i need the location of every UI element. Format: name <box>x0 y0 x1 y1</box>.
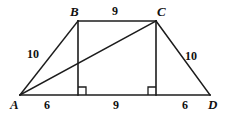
measure-label-ab: 10 <box>27 48 39 60</box>
vertex-label-c: C <box>157 5 166 18</box>
vertex-label-a: A <box>10 98 19 111</box>
measure-label-footc-to-d: 6 <box>182 99 188 111</box>
measure-label-cd: 10 <box>185 50 197 62</box>
measure-label-a-to-footb: 6 <box>44 99 50 111</box>
measure-label-bc: 9 <box>112 5 118 17</box>
right-angle-at-foot-of-c-icon <box>148 87 156 95</box>
diagonal-ac <box>20 21 156 95</box>
geometry-figure: A B C D 10 9 10 6 9 6 <box>0 0 227 118</box>
vertex-label-b: B <box>70 5 79 18</box>
segment-cd <box>156 21 210 95</box>
vertex-label-d: D <box>208 98 217 111</box>
measure-label-footb-to-footc: 9 <box>113 99 119 111</box>
right-angle-at-foot-of-b-icon <box>78 87 86 95</box>
